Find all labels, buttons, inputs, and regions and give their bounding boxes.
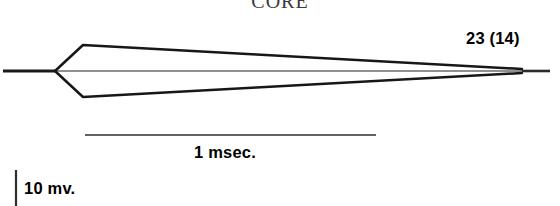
time-calibration-label: 1 msec.: [194, 144, 256, 161]
upper-deflection-trace: [55, 45, 522, 71]
lower-deflection-trace: [55, 71, 522, 97]
response-amplitude-label: 23 (14): [466, 30, 520, 47]
voltage-calibration-label: 10 mv.: [24, 180, 75, 197]
oscilloscope-figure: CORE 23 (14) 1 msec. 10 mv.: [0, 0, 560, 206]
